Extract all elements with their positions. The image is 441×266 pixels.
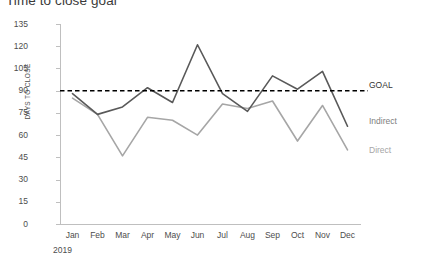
legend-label-indirect: Indirect [369,116,397,126]
plot-area [0,0,441,266]
chart-container: Time to close goal DAYS TO CLOSE 0153045… [0,0,441,266]
line-series-indirect [73,45,348,126]
line-series-direct [73,98,348,156]
legend-label-goal: GOAL [369,80,393,90]
x-axis-year-label: 2019 [53,245,72,255]
legend-label-direct: Direct [369,145,391,155]
